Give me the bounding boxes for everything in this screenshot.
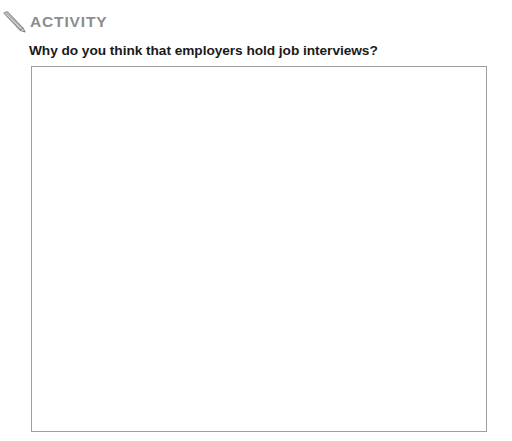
answer-input-box[interactable] [31, 66, 487, 432]
activity-header: ACTIVITY [0, 10, 107, 34]
activity-question: Why do you think that employers hold job… [29, 42, 378, 59]
activity-label: ACTIVITY [30, 13, 107, 31]
worksheet-page: ACTIVITY Why do you think that employers… [0, 0, 512, 441]
pencil-icon [0, 10, 28, 34]
